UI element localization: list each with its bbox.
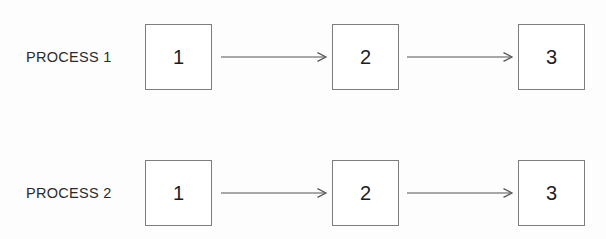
- process-2-arrow-1-to-2: [221, 186, 328, 200]
- process-row-2: PROCESS 2 1 2 3: [0, 158, 606, 228]
- process-1-arrow-2-to-3: [407, 50, 514, 64]
- process-2-node-2-label: 2: [360, 183, 371, 203]
- process-flow-diagram: PROCESS 1 1 2 3 PROCESS 2 1: [0, 0, 606, 239]
- process-1-node-3-label: 3: [546, 47, 557, 67]
- process-1-node-1-label: 1: [173, 47, 184, 67]
- process-row-1: PROCESS 1 1 2 3: [0, 22, 606, 92]
- process-2-node-1: 1: [145, 160, 212, 226]
- process-2-node-1-label: 1: [173, 183, 184, 203]
- process-1-node-2: 2: [332, 24, 399, 90]
- process-2-label: PROCESS 2: [26, 158, 138, 228]
- process-2-node-3-label: 3: [546, 183, 557, 203]
- process-2-node-2: 2: [332, 160, 399, 226]
- process-1-label: PROCESS 1: [26, 22, 138, 92]
- process-2-node-3: 3: [518, 160, 585, 226]
- process-1-arrow-1-to-2: [221, 50, 328, 64]
- process-1-node-3: 3: [518, 24, 585, 90]
- process-1-node-2-label: 2: [360, 47, 371, 67]
- process-1-node-1: 1: [145, 24, 212, 90]
- process-2-arrow-2-to-3: [407, 186, 514, 200]
